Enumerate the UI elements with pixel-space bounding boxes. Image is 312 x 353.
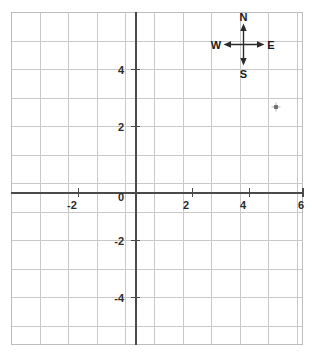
x-tick-label: 2 — [183, 199, 189, 211]
x-tick-label-origin: 0 — [118, 191, 124, 203]
grid-svg: -2 0 2 4 6 4 2 -2 -4 — [0, 0, 312, 353]
compass-label-east: E — [267, 39, 274, 51]
compass-label-south: S — [240, 68, 247, 80]
compass-label-north: N — [240, 11, 248, 23]
x-tick-label: -2 — [67, 199, 77, 211]
x-tick-label: 6 — [298, 199, 304, 211]
figure-background — [0, 0, 312, 353]
coordinate-grid-figure: -2 0 2 4 6 4 2 -2 -4 — [0, 0, 312, 353]
y-tick-label: 4 — [118, 64, 125, 76]
y-tick-label: 2 — [118, 121, 124, 133]
y-tick-label: -2 — [114, 235, 124, 247]
y-tick-label: -4 — [114, 292, 125, 304]
x-tick-label: 4 — [240, 199, 247, 211]
compass-label-west: W — [211, 39, 222, 51]
